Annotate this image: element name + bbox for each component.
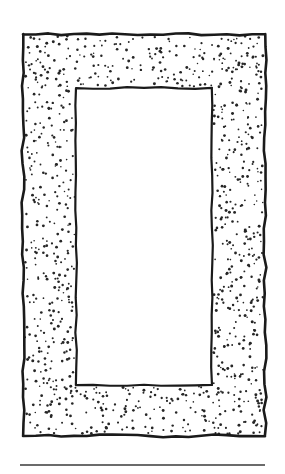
stipple-dot: [90, 426, 93, 429]
stipple-dot: [66, 81, 68, 83]
stipple-dot: [231, 281, 233, 283]
stipple-dot: [219, 413, 222, 416]
stipple-dot: [193, 401, 195, 403]
stipple-dot: [140, 69, 142, 71]
stipple-dot: [203, 52, 205, 54]
stipple-dot: [65, 408, 68, 411]
stipple-dot: [243, 401, 245, 403]
stipple-dot: [176, 82, 179, 85]
stipple-dot: [251, 414, 253, 416]
stipple-dot: [242, 167, 244, 169]
stipple-dot: [236, 233, 238, 235]
stipple-dot: [57, 325, 60, 328]
stipple-dot: [209, 75, 211, 77]
stipple-dot: [55, 246, 58, 249]
stipple-dot: [42, 251, 45, 254]
stipple-dot: [36, 224, 39, 227]
stipple-dot: [203, 429, 206, 432]
stipple-dot: [217, 387, 220, 390]
stipple-dot: [200, 42, 202, 44]
stipple-dot: [214, 229, 217, 232]
stipple-dot: [40, 318, 42, 320]
stipple-dot: [258, 389, 260, 391]
stipple-dot: [247, 123, 249, 125]
stipple-dot: [39, 186, 42, 189]
stipple-dot: [66, 85, 68, 87]
stipple-dot: [59, 113, 61, 115]
stipple-dot: [52, 319, 54, 321]
stipple-dot: [258, 82, 261, 85]
stipple-dot: [36, 340, 38, 342]
stipple-dot: [32, 355, 34, 357]
stipple-dot: [42, 238, 44, 240]
stipple-dot: [219, 276, 222, 279]
stipple-dot: [194, 48, 196, 50]
stipple-dot: [190, 407, 192, 409]
stipple-dot: [97, 84, 99, 86]
stipple-dot: [247, 264, 250, 267]
stipple-dot: [97, 64, 99, 66]
stipple-dot: [135, 405, 137, 407]
stipple-dot: [257, 279, 260, 282]
stipple-dot: [123, 414, 125, 416]
stipple-dot: [64, 274, 67, 277]
stipple-dot: [233, 67, 235, 69]
stipple-dot: [49, 67, 51, 69]
stipple-dot: [33, 93, 36, 96]
stipple-dot: [257, 125, 260, 128]
stipple-dot: [232, 408, 235, 411]
stipple-dot: [235, 278, 238, 281]
stipple-dot: [76, 48, 79, 51]
stipple-dot: [248, 400, 250, 402]
stipple-dot: [53, 388, 55, 390]
stipple-dot: [175, 411, 178, 414]
stipple-dot: [71, 266, 73, 268]
stipple-dot: [84, 45, 87, 48]
stipple-dot: [165, 81, 167, 83]
stipple-dot: [35, 247, 37, 249]
stipple-dot: [44, 369, 47, 372]
stipple-dot: [102, 403, 104, 405]
stipple-dot: [71, 117, 73, 119]
stipple-dot: [221, 62, 223, 64]
stipple-dot: [221, 139, 223, 141]
stipple-dot: [216, 355, 218, 357]
stipple-dot: [260, 76, 263, 79]
stipple-dot: [151, 58, 153, 60]
stipple-dot: [211, 44, 213, 46]
stipple-dot: [226, 240, 228, 242]
stipple-dot: [257, 168, 259, 170]
stipple-dot: [177, 398, 180, 401]
stipple-dot: [49, 221, 51, 223]
stipple-dot: [171, 424, 173, 426]
stipple-dot: [256, 366, 258, 368]
stipple-dot: [216, 190, 219, 193]
stipple-dot: [52, 102, 54, 104]
stipple-dot: [102, 421, 104, 423]
stipple-dot: [100, 407, 103, 410]
stipple-dot: [65, 38, 68, 41]
stipple-dot: [31, 173, 33, 175]
stipple-dot: [36, 424, 39, 427]
stipple-dot: [220, 52, 223, 55]
stipple-dot: [246, 175, 249, 178]
stipple-dot: [33, 201, 35, 203]
stipple-dot: [27, 87, 29, 89]
stipple-dot: [249, 127, 252, 130]
stipple-dot: [44, 357, 47, 360]
stipple-dot: [259, 409, 261, 411]
stipple-dot: [64, 258, 66, 260]
page-canvas: [0, 0, 285, 474]
stipple-dot: [34, 101, 36, 103]
stipple-dot: [115, 43, 117, 45]
stipple-dot: [260, 399, 263, 402]
stipple-dot: [261, 124, 263, 126]
stipple-dot: [231, 265, 234, 268]
stipple-dot: [240, 205, 242, 207]
stipple-dot: [36, 45, 39, 48]
stipple-dot: [240, 80, 242, 82]
stipple-dot: [204, 83, 206, 85]
stipple-dot: [225, 273, 227, 275]
stipple-dot: [50, 367, 52, 369]
stipple-dot: [66, 341, 69, 344]
